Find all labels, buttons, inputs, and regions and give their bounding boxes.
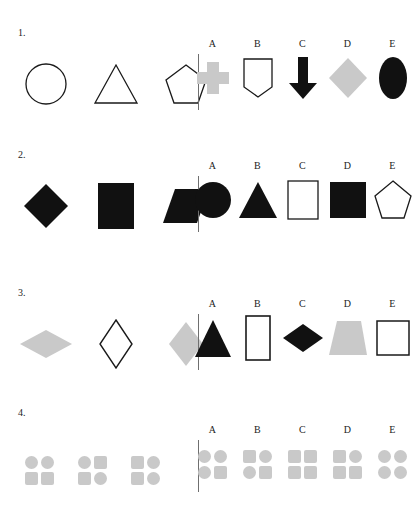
option-d[interactable]: D xyxy=(325,424,370,487)
grid-cell-square xyxy=(243,450,256,463)
option-letter: D xyxy=(344,160,352,171)
option-b[interactable]: B xyxy=(235,160,280,223)
option-figure-cross xyxy=(190,55,235,101)
grid-2x2 xyxy=(243,450,272,479)
grid-cell-square xyxy=(288,450,301,463)
question-1: 1. A B xyxy=(0,28,416,138)
option-figure-grid xyxy=(190,441,235,487)
stimulus-group xyxy=(18,178,214,234)
grid-cell-circle xyxy=(378,466,391,479)
grid-cell-circle xyxy=(198,450,211,463)
question-4: 4. xyxy=(0,408,416,518)
option-b[interactable]: B xyxy=(235,298,280,361)
option-figure-tall-rectangle xyxy=(235,315,280,361)
option-letter: E xyxy=(389,424,395,435)
option-figure-triangle xyxy=(190,315,235,361)
stimulus-figure-tall-rhombus xyxy=(88,318,144,370)
grid-cell-square xyxy=(94,456,107,469)
grid-cell-square xyxy=(259,466,272,479)
grid-cell-circle xyxy=(41,456,54,469)
option-figure-diamond xyxy=(325,55,370,101)
grid-cell-circle xyxy=(394,466,407,479)
grid-cell-circle xyxy=(243,466,256,479)
stimulus-group xyxy=(18,442,166,498)
option-figure-wide-diamond xyxy=(280,315,325,361)
grid-cell-square xyxy=(78,472,91,485)
option-letter: A xyxy=(209,298,217,309)
option-a[interactable]: A xyxy=(190,160,235,223)
worksheet: 1. A B xyxy=(0,0,416,529)
option-e[interactable]: E xyxy=(370,160,415,223)
question-3: 3. A B xyxy=(0,288,416,398)
grid-2x2 xyxy=(25,456,54,485)
grid-cell-square xyxy=(333,450,346,463)
option-c[interactable]: C xyxy=(280,424,325,487)
grid-cell-square xyxy=(25,472,38,485)
option-e[interactable]: E xyxy=(370,424,415,487)
stimulus-figure-triangle xyxy=(88,58,144,110)
stimulus-figure-wide-rhombus xyxy=(18,318,74,370)
option-b[interactable]: B xyxy=(235,424,280,487)
option-letter: D xyxy=(344,424,352,435)
stimulus-group xyxy=(18,56,214,112)
option-d[interactable]: D xyxy=(325,298,370,361)
option-a[interactable]: A xyxy=(190,424,235,487)
grid-cell-circle xyxy=(214,450,227,463)
grid-2x2 xyxy=(333,450,362,479)
option-letter: C xyxy=(299,160,306,171)
option-d[interactable]: D xyxy=(325,160,370,223)
stimulus-figure-circle xyxy=(18,58,74,110)
option-figure-grid xyxy=(235,441,280,487)
option-letter: B xyxy=(254,424,261,435)
stimulus-figure-grid xyxy=(18,444,60,496)
option-figure-down-arrow xyxy=(280,55,325,101)
option-c[interactable]: C xyxy=(280,298,325,361)
option-letter: C xyxy=(299,298,306,309)
option-letter: A xyxy=(209,160,217,171)
options-group: A B C D xyxy=(190,160,415,223)
grid-2x2 xyxy=(378,450,407,479)
option-figure-pentagon xyxy=(370,177,415,223)
option-figure-grid xyxy=(280,441,325,487)
grid-cell-circle xyxy=(94,472,107,485)
option-figure-circle xyxy=(190,177,235,223)
option-letter: B xyxy=(254,38,261,49)
option-letter: D xyxy=(344,38,352,49)
grid-cell-square xyxy=(41,472,54,485)
option-figure-ellipse xyxy=(370,55,415,101)
option-figure-trapezoid xyxy=(325,315,370,361)
option-d[interactable]: D xyxy=(325,38,370,101)
option-letter: C xyxy=(299,424,306,435)
option-e[interactable]: E xyxy=(370,298,415,361)
grid-2x2 xyxy=(131,456,160,485)
options-group: A B C D xyxy=(190,38,415,101)
grid-cell-square xyxy=(304,450,317,463)
grid-cell-square xyxy=(304,466,317,479)
stimulus-figure-grid xyxy=(124,444,166,496)
grid-cell-square xyxy=(214,466,227,479)
option-letter: B xyxy=(254,298,261,309)
grid-cell-circle xyxy=(198,466,211,479)
grid-cell-square xyxy=(131,456,144,469)
options-group: A B xyxy=(190,424,415,487)
option-letter: C xyxy=(299,38,306,49)
option-a[interactable]: A xyxy=(190,298,235,361)
grid-cell-square xyxy=(288,466,301,479)
option-e[interactable]: E xyxy=(370,38,415,101)
option-figure-square xyxy=(370,315,415,361)
grid-cell-circle xyxy=(25,456,38,469)
grid-cell-circle xyxy=(349,450,362,463)
grid-cell-circle xyxy=(394,450,407,463)
stimulus-figure-rectangle xyxy=(88,180,144,232)
option-b[interactable]: B xyxy=(235,38,280,101)
question-2: 2. A B xyxy=(0,150,416,260)
option-letter: B xyxy=(254,160,261,171)
option-letter: A xyxy=(209,424,217,435)
grid-2x2 xyxy=(78,456,107,485)
option-c[interactable]: C xyxy=(280,160,325,223)
option-letter: A xyxy=(209,38,217,49)
question-number: 2. xyxy=(18,150,26,160)
option-c[interactable]: C xyxy=(280,38,325,101)
option-a[interactable]: A xyxy=(190,38,235,101)
grid-cell-square xyxy=(131,472,144,485)
